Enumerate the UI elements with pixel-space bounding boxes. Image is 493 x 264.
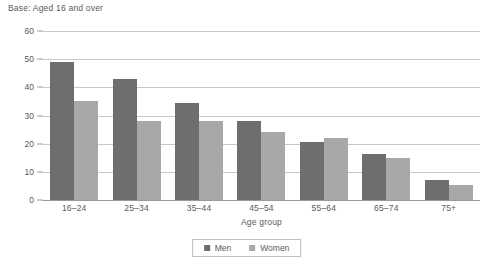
bar-women (199, 121, 223, 200)
x-axis-tick-label: 75+ (418, 203, 480, 213)
bar-women (324, 138, 348, 200)
y-axis-tick-label: 20 (25, 139, 34, 149)
bar-chart: Base: Aged 16 and over Per cent 01020304… (0, 0, 493, 264)
legend-item-women: Women (249, 243, 289, 253)
bar-men (425, 180, 449, 200)
x-axis-title: Age group (43, 217, 480, 227)
legend-label: Women (260, 243, 289, 253)
bars-layer (43, 31, 480, 200)
base-note: Base: Aged 16 and over (8, 3, 103, 13)
bar-men (300, 142, 324, 200)
bar-women (74, 101, 98, 200)
bar-men (237, 121, 261, 200)
bar-group (418, 31, 480, 200)
x-axis-tick-label: 55–64 (293, 203, 355, 213)
bar-men (175, 103, 199, 200)
bar-men (362, 154, 386, 200)
legend-label: Men (215, 243, 232, 253)
legend-item-men: Men (204, 243, 232, 253)
bar-group (43, 31, 105, 200)
y-axis-tick-label: 50 (25, 54, 34, 64)
bar-group (355, 31, 417, 200)
x-axis-tick-label: 16–24 (43, 203, 105, 213)
bar-group (230, 31, 292, 200)
y-axis-ticks: 0102030405060 (0, 31, 43, 200)
x-axis-tick-label: 35–44 (168, 203, 230, 213)
bar-men (113, 79, 137, 200)
bar-group (105, 31, 167, 200)
bar-group (293, 31, 355, 200)
x-axis-tick-label: 25–34 (105, 203, 167, 213)
legend: MenWomen (192, 239, 302, 257)
x-axis-tick-labels: 16–2425–3435–4445–5455–6465–7475+ (43, 203, 480, 213)
y-axis-tick-label: 60 (25, 26, 34, 36)
bar-women (386, 158, 410, 200)
bar-group (168, 31, 230, 200)
y-axis-tick-label: 0 (29, 195, 34, 205)
legend-swatch-icon (249, 245, 255, 251)
legend-swatch-icon (204, 245, 210, 251)
bar-women (137, 121, 161, 200)
gridline (43, 200, 480, 201)
x-axis-tick-label: 65–74 (355, 203, 417, 213)
y-axis-tick-label: 40 (25, 82, 34, 92)
y-axis-tick-label: 30 (25, 111, 34, 121)
bar-women (449, 185, 473, 200)
bar-women (261, 132, 285, 200)
y-axis-tick-label: 10 (25, 167, 34, 177)
x-axis-tick-label: 45–54 (230, 203, 292, 213)
bar-men (50, 62, 74, 200)
plot-area (43, 31, 480, 200)
